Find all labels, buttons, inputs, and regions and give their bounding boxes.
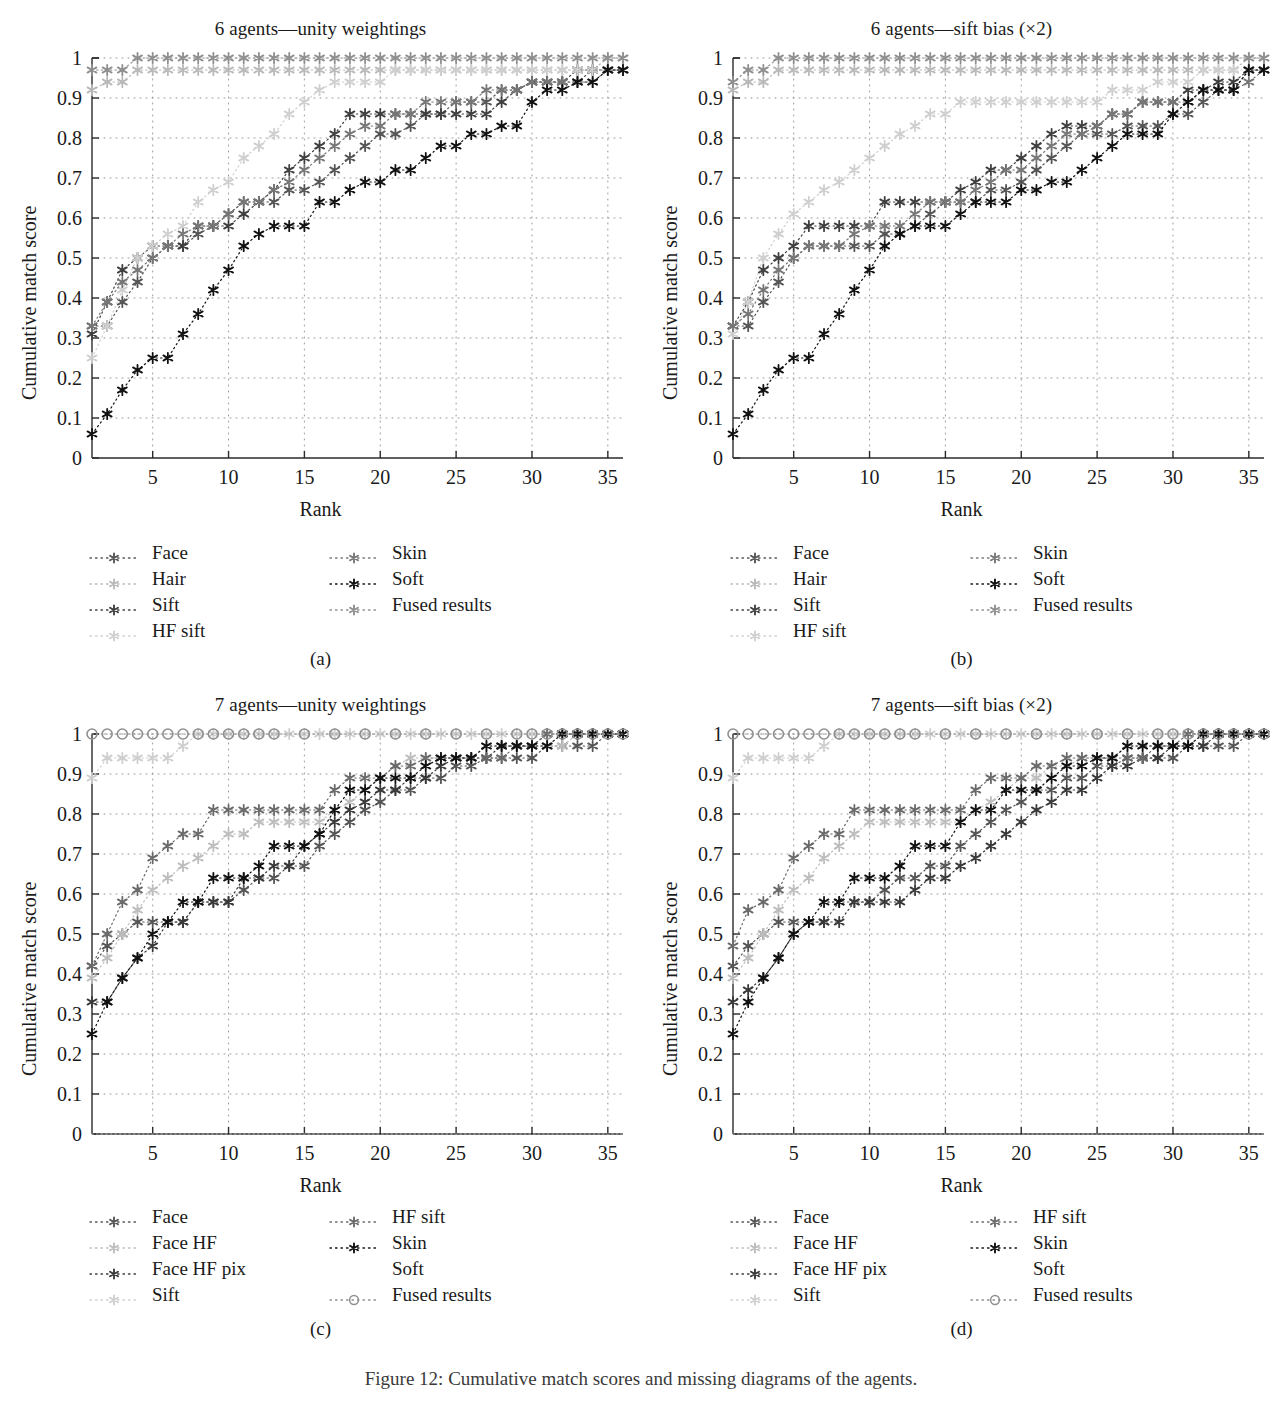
legend-item-label: Sift xyxy=(152,1282,179,1308)
svg-text:20: 20 xyxy=(1011,1142,1031,1164)
legend-circle-marker-icon xyxy=(328,1288,380,1302)
panel-d-legend-right: HF siftSkinSoftFused results xyxy=(969,1204,1199,1308)
legend-item: Fused results xyxy=(969,1282,1199,1308)
panel-d-letter: (d) xyxy=(641,1318,1282,1340)
svg-text:0.5: 0.5 xyxy=(698,923,723,945)
legend-asterisk-marker-icon xyxy=(729,624,781,638)
svg-text:0.7: 0.7 xyxy=(57,167,82,189)
legend-item-label: Soft xyxy=(1033,1256,1065,1282)
svg-text:5: 5 xyxy=(789,466,799,488)
legend-item: Skin xyxy=(969,1230,1199,1256)
svg-text:10: 10 xyxy=(219,1142,239,1164)
legend-item-label: Face HF pix xyxy=(793,1256,887,1282)
svg-text:0.5: 0.5 xyxy=(57,923,82,945)
svg-text:1: 1 xyxy=(713,723,723,745)
legend-item-label: HF sift xyxy=(1033,1204,1086,1230)
svg-text:10: 10 xyxy=(860,466,880,488)
panel-c-letter: (c) xyxy=(0,1318,641,1340)
legend-item: HF sift xyxy=(729,618,959,644)
legend-item-label: Face HF xyxy=(152,1230,217,1256)
legend-asterisk-marker-icon xyxy=(729,572,781,586)
legend-item: Sift xyxy=(88,592,318,618)
legend-item-label: Skin xyxy=(1033,1230,1068,1256)
svg-text:0.8: 0.8 xyxy=(57,803,82,825)
svg-text:20: 20 xyxy=(1011,466,1031,488)
svg-text:0.7: 0.7 xyxy=(698,843,723,865)
svg-text:0.9: 0.9 xyxy=(57,87,82,109)
legend-item-label: Fused results xyxy=(392,1282,492,1308)
legend-item: Face xyxy=(729,1204,959,1230)
panel-b-letter: (b) xyxy=(641,648,1282,670)
svg-text:0.8: 0.8 xyxy=(698,127,723,149)
svg-text:0.9: 0.9 xyxy=(698,87,723,109)
legend-item-label: Skin xyxy=(1033,540,1068,566)
legend-item-label: Fused results xyxy=(392,592,492,618)
legend-item-label: Fused results xyxy=(1033,1282,1133,1308)
panel-b-plot: 00.10.20.30.40.50.60.70.80.9151015202530… xyxy=(641,40,1282,510)
legend-asterisk-marker-icon xyxy=(969,546,1021,560)
legend-asterisk-marker-icon xyxy=(328,546,380,560)
svg-text:0.6: 0.6 xyxy=(57,883,82,905)
legend-item: Face HF pix xyxy=(729,1256,959,1282)
legend-asterisk-marker-icon xyxy=(88,1288,140,1302)
svg-text:0.8: 0.8 xyxy=(57,127,82,149)
legend-item: Skin xyxy=(969,540,1199,566)
legend-item-label: Hair xyxy=(152,566,186,592)
legend-item: Sift xyxy=(88,1282,318,1308)
panel-c-ylabel: Cumulative match score xyxy=(18,882,41,1076)
legend-asterisk-marker-icon xyxy=(88,1210,140,1224)
legend-asterisk-marker-icon xyxy=(88,598,140,612)
svg-text:0.6: 0.6 xyxy=(57,207,82,229)
panel-d-ylabel: Cumulative match score xyxy=(659,882,682,1076)
svg-text:0: 0 xyxy=(713,447,723,469)
legend-asterisk-marker-icon xyxy=(969,1236,1021,1250)
legend-asterisk-marker-icon xyxy=(88,1262,140,1276)
svg-text:1: 1 xyxy=(713,47,723,69)
panel-a-plot: 00.10.20.30.40.50.60.70.80.9151015202530… xyxy=(0,40,641,510)
svg-text:35: 35 xyxy=(1239,1142,1259,1164)
panel-a-title: 6 agents—unity weightings xyxy=(0,18,641,40)
legend-item: Fused results xyxy=(328,592,558,618)
legend-item: Soft xyxy=(969,566,1199,592)
legend-item: Skin xyxy=(328,1230,558,1256)
legend-asterisk-marker-icon xyxy=(88,572,140,586)
panel-c-title: 7 agents—unity weightings xyxy=(0,694,641,716)
legend-item: Skin xyxy=(328,540,558,566)
legend-item-label: Face xyxy=(793,1204,829,1230)
svg-text:10: 10 xyxy=(219,466,239,488)
svg-text:5: 5 xyxy=(148,466,158,488)
legend-item-label: HF sift xyxy=(793,618,846,644)
svg-text:0.4: 0.4 xyxy=(698,963,723,985)
legend-item: Face HF pix xyxy=(88,1256,318,1282)
legend-item-label: HF sift xyxy=(392,1204,445,1230)
svg-text:0.1: 0.1 xyxy=(698,407,723,429)
legend-item: Soft xyxy=(969,1256,1199,1282)
panel-b-legend-left: FaceHairSiftHF sift xyxy=(729,540,959,644)
panel-a-xlabel: Rank xyxy=(0,498,641,521)
legend-item: HF sift xyxy=(969,1204,1199,1230)
svg-text:0.7: 0.7 xyxy=(698,167,723,189)
legend-circle-marker-icon xyxy=(969,1288,1021,1302)
legend-item-label: Face xyxy=(152,540,188,566)
svg-text:0.2: 0.2 xyxy=(698,367,723,389)
legend-item-label: Fused results xyxy=(1033,592,1133,618)
svg-text:0.3: 0.3 xyxy=(698,1003,723,1025)
svg-text:15: 15 xyxy=(935,1142,955,1164)
legend-item-label: Skin xyxy=(392,540,427,566)
legend-asterisk-marker-icon xyxy=(729,1236,781,1250)
legend-asterisk-marker-icon xyxy=(328,598,380,612)
legend-asterisk-marker-icon xyxy=(729,1210,781,1224)
svg-text:1: 1 xyxy=(72,723,82,745)
panel-d-plot: 00.10.20.30.40.50.60.70.80.9151015202530… xyxy=(641,716,1282,1186)
panel-a-legend: FaceHairSiftHF sift SkinSoftFused result… xyxy=(88,540,558,644)
legend-asterisk-marker-icon xyxy=(88,1236,140,1250)
svg-text:0.2: 0.2 xyxy=(57,367,82,389)
legend-item: HF sift xyxy=(88,618,318,644)
svg-text:35: 35 xyxy=(598,1142,618,1164)
svg-text:0.1: 0.1 xyxy=(57,1083,82,1105)
legend-item-label: Sift xyxy=(152,592,179,618)
legend-item-label: Face xyxy=(793,540,829,566)
legend-item: Soft xyxy=(328,1256,558,1282)
svg-text:25: 25 xyxy=(446,466,466,488)
legend-item: Fused results xyxy=(969,592,1199,618)
